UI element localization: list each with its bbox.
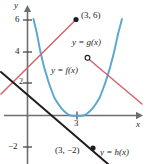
point-label-3-neg2: (3, −2)	[55, 146, 80, 155]
point-marker-open	[85, 55, 90, 60]
y-axis	[24, 5, 31, 164]
y-tick-label-2: 2	[19, 78, 23, 86]
y-tick-label-6: 6	[15, 15, 20, 24]
point-label-3-6: (3, 6)	[81, 11, 101, 20]
curve-label-f: y = f(x)	[51, 66, 78, 75]
x-axis-label: x	[136, 120, 140, 129]
coordinate-graph: y x 6 4 2 −2 3 y = g(x) y = f(x) y = h(x…	[0, 0, 147, 164]
y-axis-label: y	[14, 1, 18, 10]
y-tick-label-neg2: −2	[8, 142, 18, 151]
y-tick-label-4: 4	[15, 47, 20, 56]
point-marker-3-6	[73, 17, 78, 22]
point-marker-3-neg2	[90, 145, 95, 150]
curve-label-h: y = h(x)	[100, 148, 129, 157]
x-tick-label-3: 3	[74, 119, 79, 128]
curve-label-g: y = g(x)	[72, 38, 101, 47]
